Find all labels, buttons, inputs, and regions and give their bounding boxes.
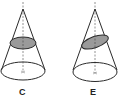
cone-e-label: E	[90, 88, 96, 97]
cone-c-label: C	[19, 88, 26, 97]
cone-c-base	[1, 62, 45, 80]
cone-c	[1, 2, 45, 80]
cone-c-base-center-icon	[21, 71, 25, 73]
cone-e	[73, 2, 117, 82]
